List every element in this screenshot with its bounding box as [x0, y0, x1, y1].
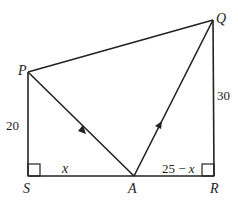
right-angle-s-icon	[28, 164, 40, 176]
measure-ps: 20	[6, 118, 19, 133]
arrow-pa-icon	[78, 125, 86, 134]
segment-pq	[28, 20, 213, 72]
measure-qr: 30	[217, 88, 230, 103]
segment-pa	[28, 72, 134, 176]
label-s: S	[23, 181, 30, 196]
label-r: R	[209, 181, 219, 196]
segment-aq	[134, 20, 213, 176]
measure-ar-var: x	[188, 161, 195, 176]
label-q: Q	[216, 11, 226, 26]
right-angle-r-icon	[202, 164, 214, 176]
measure-sa: x	[61, 161, 69, 176]
label-p: P	[17, 63, 27, 78]
measure-ar: 25 − x	[162, 161, 195, 176]
label-a: A	[127, 181, 137, 196]
measure-ar-const: 25 −	[162, 161, 189, 176]
segment-qr	[213, 20, 214, 176]
geometry-diagram: P Q S A R 20 30 x 25 − x	[0, 0, 238, 201]
